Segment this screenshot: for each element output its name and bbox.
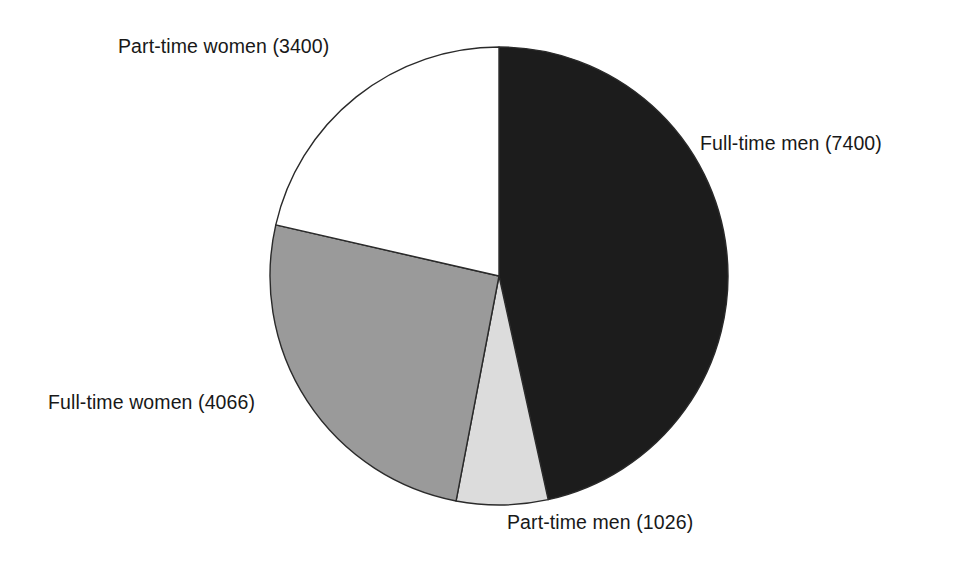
pie-slices-group xyxy=(270,47,728,505)
slice-label-part-time-men: Part-time men (1026) xyxy=(507,512,693,533)
pie-chart-figure: Full-time men (7400) Part-time men (1026… xyxy=(0,0,954,565)
slice-label-part-time-women: Part-time women (3400) xyxy=(118,36,329,57)
pie-chart-canvas xyxy=(0,0,954,565)
slice-label-full-time-men: Full-time men (7400) xyxy=(700,133,882,154)
slice-label-full-time-women: Full-time women (4066) xyxy=(48,392,255,413)
